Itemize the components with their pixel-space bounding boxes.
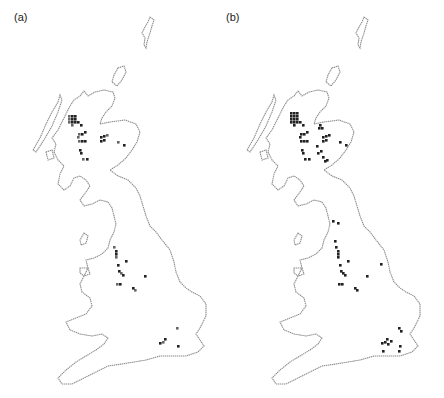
- record-square: [103, 139, 106, 142]
- record-square: [159, 342, 162, 345]
- record-square: [320, 150, 323, 153]
- record-square: [400, 330, 403, 333]
- record-square: [117, 141, 120, 144]
- record-square: [321, 127, 324, 130]
- record-square: [339, 264, 342, 267]
- record-square: [176, 327, 179, 330]
- record-square: [338, 283, 341, 286]
- record-squares: [290, 112, 403, 353]
- record-square: [68, 115, 71, 118]
- record-square: [382, 350, 385, 353]
- record-square: [322, 140, 325, 143]
- record-square: [296, 121, 299, 124]
- record-square: [356, 289, 359, 292]
- record-square: [299, 136, 302, 139]
- coastline: [247, 17, 420, 384]
- record-square: [380, 263, 383, 266]
- record-square: [71, 115, 74, 118]
- map-panel-a: (a): [0, 0, 222, 398]
- record-square: [337, 256, 340, 259]
- record-square: [341, 283, 344, 286]
- record-square: [80, 124, 83, 127]
- record-square: [335, 246, 338, 249]
- record-square: [296, 115, 299, 118]
- record-square: [326, 159, 329, 162]
- record-square: [290, 118, 293, 121]
- record-square: [296, 112, 299, 115]
- record-square: [337, 222, 340, 225]
- record-square: [78, 140, 81, 143]
- record-square: [68, 118, 71, 121]
- record-square: [339, 141, 342, 144]
- record-square: [115, 256, 118, 259]
- record-square: [306, 131, 309, 134]
- record-square: [100, 140, 103, 143]
- record-square: [302, 152, 305, 155]
- record-square: [308, 158, 311, 161]
- record-square: [115, 250, 118, 253]
- record-square: [134, 289, 137, 292]
- record-square: [337, 250, 340, 253]
- record-square: [82, 158, 85, 161]
- record-square: [81, 133, 84, 136]
- record-square: [322, 156, 325, 159]
- record-square: [68, 121, 71, 124]
- record-square: [117, 264, 120, 267]
- record-square: [290, 115, 293, 118]
- record-square: [328, 134, 331, 137]
- record-square: [79, 149, 82, 152]
- record-square: [106, 134, 109, 137]
- record-square: [318, 127, 321, 130]
- record-square: [300, 140, 303, 143]
- record-square: [337, 253, 340, 256]
- record-square: [390, 340, 393, 343]
- record-square: [290, 121, 293, 124]
- record-square: [384, 341, 387, 344]
- record-square: [347, 260, 350, 263]
- record-square: [303, 133, 306, 136]
- record-square: [316, 145, 319, 148]
- record-square: [303, 140, 306, 143]
- record-square: [398, 350, 401, 353]
- record-square: [304, 158, 307, 161]
- great-britain-map-b: [222, 0, 444, 398]
- record-square: [299, 121, 302, 124]
- map-panel-b: (b): [222, 0, 444, 398]
- record-square: [319, 124, 322, 127]
- record-square: [302, 124, 305, 127]
- great-britain-map-a: [0, 0, 222, 398]
- record-square: [293, 121, 296, 124]
- record-square: [366, 275, 369, 278]
- record-square: [115, 253, 118, 256]
- record-square: [71, 124, 74, 127]
- record-square: [74, 121, 77, 124]
- record-square: [325, 139, 328, 142]
- record-square: [293, 118, 296, 121]
- record-square: [386, 338, 389, 341]
- record-square: [164, 338, 167, 341]
- coastline: [33, 17, 206, 384]
- record-square: [177, 345, 180, 348]
- record-square: [100, 136, 103, 139]
- record-square: [122, 274, 125, 277]
- record-square: [332, 220, 335, 223]
- record-square: [78, 133, 81, 136]
- record-square: [116, 283, 119, 286]
- record-square: [74, 115, 77, 118]
- record-square: [71, 121, 74, 124]
- record-square: [344, 274, 347, 277]
- record-square: [322, 136, 325, 139]
- record-square: [301, 149, 304, 152]
- record-square: [86, 158, 89, 161]
- record-square: [300, 133, 303, 136]
- record-square: [81, 140, 84, 143]
- record-square: [296, 118, 299, 121]
- record-square: [113, 246, 116, 249]
- record-square: [293, 115, 296, 118]
- record-square: [317, 152, 320, 155]
- record-square: [84, 140, 87, 143]
- record-square: [77, 121, 80, 124]
- record-square: [77, 136, 80, 139]
- record-square: [125, 260, 128, 263]
- record-square: [306, 140, 309, 143]
